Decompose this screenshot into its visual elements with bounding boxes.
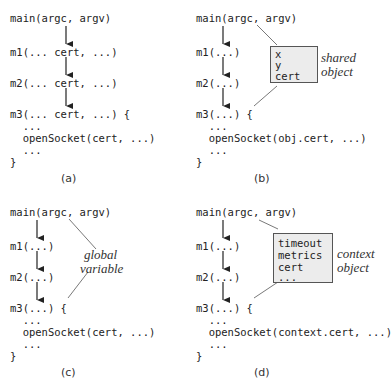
code-ellipsis: ... — [196, 144, 228, 156]
caption-a: (a) — [61, 172, 76, 185]
code-ellipsis: ... — [10, 314, 42, 326]
code-close-brace: } — [10, 350, 16, 362]
code-m2: m2(...) — [196, 77, 240, 89]
code-m1: m1(...) — [10, 240, 54, 252]
shared-object-label-line2: object — [321, 65, 353, 79]
field-metrics: metrics — [278, 249, 332, 261]
code-ellipsis: ... — [10, 144, 42, 156]
code-ellipsis: ... — [196, 314, 228, 326]
code-close-brace: } — [196, 350, 202, 362]
code-m1: m1(... cert, ...) — [10, 46, 117, 58]
code-ellipsis: ... — [10, 120, 42, 132]
global-variable-label-line1: global — [84, 248, 117, 262]
field-x: x — [275, 48, 317, 60]
code-main: main(argc, argv) — [10, 12, 111, 24]
code-open-socket: openSocket(obj.cert, ...) — [196, 132, 367, 144]
context-object-label-line1: context — [337, 247, 375, 261]
code-open-socket: openSocket(cert, ...) — [10, 132, 155, 144]
field-cert: cert — [275, 70, 317, 82]
global-variable-label-line2: variable — [80, 262, 123, 276]
context-object-box: timeout metrics cert ... — [273, 233, 333, 283]
code-close-brace: } — [196, 156, 202, 168]
caption-b: (b) — [254, 172, 270, 185]
field-timeout: timeout — [278, 237, 332, 249]
code-main: main(argc, argv) — [196, 206, 297, 218]
shared-object-box: x y cert — [270, 46, 318, 83]
caption-d: (d) — [254, 366, 270, 379]
code-ellipsis: ... — [196, 338, 228, 350]
code-m2: m2(... cert, ...) — [10, 77, 117, 89]
code-open-socket: openSocket(context.cert, ...) — [196, 326, 392, 338]
code-close-brace: } — [10, 156, 16, 168]
code-m3: m3(...) { — [196, 302, 253, 314]
code-m1: m1(...) — [196, 240, 240, 252]
field-ellipsis: ... — [278, 273, 332, 281]
code-m3: m3(...) { — [10, 302, 67, 314]
code-m2: m2(...) — [10, 271, 54, 283]
code-m3: m3(...) { — [196, 108, 253, 120]
code-m2: m2(...) — [196, 271, 240, 283]
caption-c: (c) — [61, 366, 76, 379]
code-open-socket: openSocket(cert, ...) — [10, 326, 155, 338]
code-m3: m3(... cert, ...) { — [10, 108, 130, 120]
code-ellipsis: ... — [10, 338, 42, 350]
shared-object-label-line1: shared — [321, 51, 356, 65]
code-ellipsis: ... — [196, 120, 228, 132]
code-main: main(argc, argv) — [196, 12, 297, 24]
code-main: main(argc, argv) — [10, 206, 111, 218]
field-y: y — [275, 60, 317, 70]
context-object-label-line2: object — [337, 261, 369, 275]
code-m1: m1(...) — [196, 46, 240, 58]
